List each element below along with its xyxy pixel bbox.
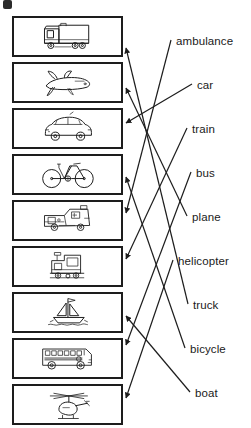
picture-box-truck[interactable] [12,16,123,57]
word-label-boat[interactable]: boat [195,388,218,400]
corner-bullet-mark [3,0,12,9]
worksheet-page: ambulance car train bus plane helicopter… [0,0,251,428]
word-label-bicycle[interactable]: bicycle [190,344,226,356]
connector-line-train [126,128,187,259]
word-label-car[interactable]: car [197,80,213,92]
picture-box-car[interactable] [12,108,123,149]
word-label-bus[interactable]: bus [196,168,215,180]
bicycle-icon [14,156,121,193]
boat-icon [14,294,121,331]
word-label-truck[interactable]: truck [193,300,218,312]
picture-box-helicopter[interactable] [12,384,123,425]
connector-line-plane [126,88,187,216]
word-label-helicopter[interactable]: helicopter [178,256,229,268]
picture-box-train[interactable] [12,246,123,287]
truck-icon [14,18,121,55]
picture-box-bicycle[interactable] [12,154,123,195]
word-label-train[interactable]: train [192,124,215,136]
train-icon [14,248,121,285]
word-label-plane[interactable]: plane [192,212,221,224]
picture-box-plane[interactable] [12,62,123,103]
car-icon [14,110,121,147]
picture-box-boat[interactable] [12,292,123,333]
plane-icon [14,64,121,101]
ambulance-icon [14,202,121,239]
connector-line-bicycle [126,177,185,348]
bus-icon [14,340,121,377]
connector-line-car [126,84,192,123]
word-label-ambulance[interactable]: ambulance [176,36,233,48]
connector-line-helicopter [126,260,173,398]
connector-line-boat [126,316,190,392]
picture-box-bus[interactable] [12,338,123,379]
connector-line-ambulance [126,40,171,213]
picture-box-ambulance[interactable] [12,200,123,241]
helicopter-icon [14,386,121,423]
